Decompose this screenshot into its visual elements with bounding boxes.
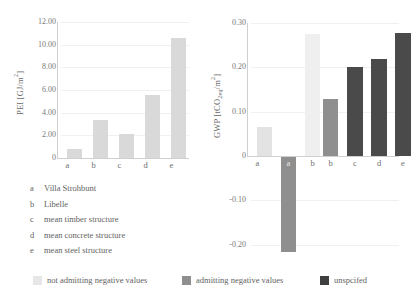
gwp-ytick-030: 0.30 — [204, 19, 246, 27]
gwp-ytick-020: 0.20 — [204, 63, 246, 71]
pei-xtick-c: c — [112, 160, 127, 170]
pei-ytick-0: 0 — [16, 154, 56, 162]
key-list-item-label: mean concrete structure — [44, 230, 205, 240]
pei-x-axis-line — [57, 158, 189, 159]
legend-swatch-icon — [182, 276, 191, 285]
pei-y-axis-title-sup: 2 — [13, 74, 19, 77]
chart-panel-gwp: GWP [tCO2eq/m2] 0.30 0.20 0.10 0 -0.10 -… — [200, 0, 405, 262]
gwp-y-axis-title-sub: 2eq — [217, 90, 223, 99]
legend-entry-not-admitting: not admitting negative values — [33, 275, 147, 285]
gwp-bar-a-positive[interactable] — [257, 127, 272, 156]
key-list-item-label: mean steel structure — [44, 245, 205, 255]
key-list-item: a Villa Strohbunt — [30, 183, 205, 199]
key-list-item: b Libelle — [30, 199, 205, 215]
legend-entry-unspcifed: unspcifed — [320, 275, 367, 285]
category-key-list: a Villa Strohbunt b Libelle c mean timbe… — [30, 183, 205, 261]
pei-plot-area — [57, 22, 189, 158]
pei-xtick-a: a — [60, 160, 75, 170]
gwp-bar-c[interactable] — [347, 67, 363, 156]
gwp-xtick-e: e — [395, 158, 411, 168]
gwp-xtick-d: d — [371, 158, 387, 168]
pei-ytick-2: 2.00 — [16, 131, 56, 139]
key-list-item-label: mean timber structure — [44, 214, 205, 224]
gwp-bar-b-positive[interactable] — [305, 34, 320, 156]
pei-bar-d[interactable] — [145, 95, 160, 159]
key-list-item-key: a — [30, 183, 44, 193]
legend-label: not admitting negative values — [47, 275, 147, 285]
pei-ytick-4: 4.00 — [16, 109, 56, 117]
gwp-y-axis-title-tail: ] — [212, 74, 222, 77]
pei-bar-b[interactable] — [93, 120, 108, 159]
gwp-xtick-a2: a — [281, 158, 296, 168]
gwp-gridline-neg010 — [251, 200, 399, 201]
gwp-xtick-c: c — [347, 158, 363, 168]
pei-bar-e[interactable] — [171, 38, 186, 158]
legend-swatch-icon — [33, 276, 42, 285]
key-list-item-key: e — [30, 245, 44, 255]
gwp-zero-line — [247, 156, 399, 157]
key-list-item-key: b — [30, 199, 44, 209]
key-list-item: d mean concrete structure — [30, 230, 205, 246]
pei-xtick-b: b — [86, 160, 101, 170]
gwp-xtick-b2: b — [323, 158, 338, 168]
gwp-ytick-neg020: -0.20 — [204, 241, 246, 249]
key-list-item-label: Villa Strohbunt — [44, 183, 205, 193]
pei-xtick-d: d — [138, 160, 153, 170]
key-list-item: e mean steel structure — [30, 245, 205, 261]
gwp-ytick-neg010: -0.10 — [204, 196, 246, 204]
gwp-bar-e[interactable] — [395, 33, 411, 156]
pei-bar-c[interactable] — [119, 134, 134, 158]
pei-ytick-12: 12.00 — [16, 18, 56, 26]
pei-ytick-6: 6.00 — [16, 86, 56, 94]
key-list-item-key: d — [30, 230, 44, 240]
key-list-item-label: Libelle — [44, 199, 205, 209]
gwp-bar-a-admitting[interactable] — [281, 157, 296, 252]
gwp-y-axis-title-sup: 2 — [210, 77, 216, 80]
gwp-ytick-0: 0 — [204, 152, 246, 160]
key-list-item: c mean timber structure — [30, 214, 205, 230]
pei-bar-a[interactable] — [67, 149, 82, 158]
chart-panel-pei: PEI [GJ/m2] 12.00 10.00 8.00 6.00 4.00 2… — [0, 0, 200, 178]
gwp-y-axis-title-mid: /m — [212, 80, 222, 89]
gwp-xtick-b1: b — [305, 158, 320, 168]
pei-ytick-10: 10.00 — [16, 41, 56, 49]
legend-entry-admitting: admitting negative values — [182, 275, 283, 285]
gwp-ytick-010: 0.10 — [204, 108, 246, 116]
chart-legend: not admitting negative values admitting … — [0, 272, 405, 292]
gwp-y-axis-title-main: GWP [tCO — [212, 99, 222, 138]
legend-label: unspcifed — [334, 275, 367, 285]
legend-swatch-icon — [320, 276, 329, 285]
gwp-xtick-a1: a — [250, 158, 265, 168]
pei-ytick-8: 8.00 — [16, 63, 56, 71]
pei-xtick-e: e — [164, 160, 179, 170]
gwp-bar-b-admitting[interactable] — [323, 99, 338, 156]
gwp-plot-area — [247, 23, 399, 156]
gwp-gridline-neg020 — [251, 245, 399, 246]
pei-y-axis-title-tail: ] — [15, 71, 25, 74]
legend-label: admitting negative values — [196, 275, 283, 285]
gwp-bar-d[interactable] — [371, 59, 387, 156]
key-list-item-key: c — [30, 214, 44, 224]
